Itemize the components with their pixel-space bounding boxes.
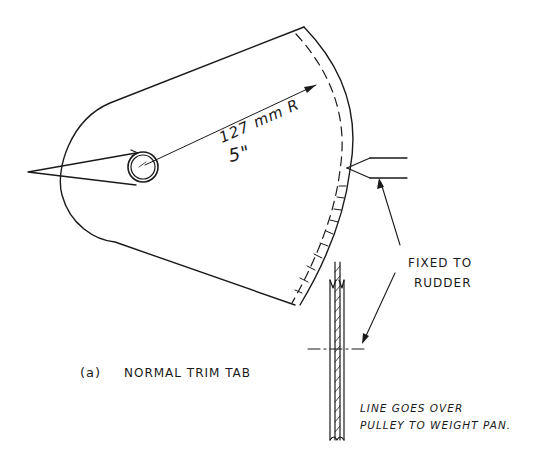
line-note-line2: PULLEY TO WEIGHT PAN.	[360, 419, 511, 431]
leader-arrows	[362, 178, 400, 344]
sector-outline	[60, 27, 304, 305]
dimension-imperial-label: 5"	[226, 141, 252, 166]
caption-letter: (a)	[80, 365, 101, 380]
fixed-to-label-line2: RUDDER	[414, 276, 472, 290]
cord-line	[335, 262, 340, 440]
trim-tab-diagram: 127 mm R 5"	[0, 0, 541, 461]
arc-hatch-ticks	[295, 186, 346, 293]
rudder-fixture	[347, 158, 407, 178]
caption-title: NORMAL TRIM TAB	[124, 366, 251, 380]
leader-arrowhead-up-icon	[377, 178, 384, 189]
dimension-arrowhead-icon	[304, 85, 316, 93]
line-note-line1: LINE GOES OVER	[360, 402, 463, 414]
pivot-tube-icon	[128, 152, 158, 182]
pointer-wedge	[28, 153, 136, 185]
leader-arrowhead-down-icon	[362, 333, 369, 344]
sector-outer-arc	[300, 27, 353, 305]
fixed-to-label-line1: FIXED TO	[408, 256, 472, 270]
dimension-metric-label: 127 mm R	[216, 95, 302, 146]
